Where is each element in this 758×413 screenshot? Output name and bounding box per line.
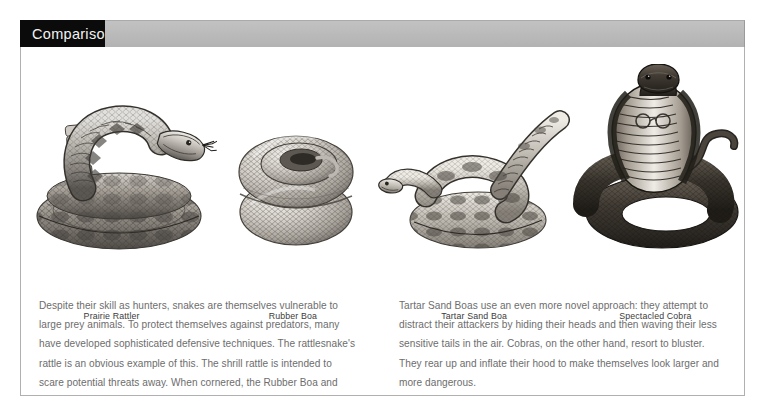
coiled-ball-snake-icon (221, 64, 371, 260)
header-gray-bar (105, 20, 745, 48)
body-text-columns: Despite their skill as hunters, snakes a… (39, 296, 739, 392)
body-column-left: Despite their skill as hunters, snakes a… (39, 296, 359, 392)
body-paragraph-left: Despite their skill as hunters, snakes a… (39, 296, 359, 392)
figure-spectacled-cobra (570, 55, 746, 260)
content-panel: Prairie Rattler Rubber Boa Tartar Sand B… (20, 47, 745, 396)
rearing-cobra-hood-icon (570, 64, 746, 260)
comparisons-page: Comparisons (0, 0, 758, 413)
figure-rubber-boa (217, 55, 374, 260)
figure-tartar-sand-boa (374, 55, 570, 260)
sand-boa-raised-tail-icon (374, 64, 570, 260)
header-title-box: Comparisons (20, 20, 105, 48)
body-column-right: Tartar Sand Boas use an even more novel … (399, 296, 719, 392)
coiled-rattlesnake-icon (21, 64, 217, 260)
body-paragraph-right: Tartar Sand Boas use an even more novel … (399, 296, 719, 392)
figure-row (21, 55, 746, 260)
figure-prairie-rattler (21, 55, 217, 260)
header-band: Comparisons (20, 20, 745, 48)
